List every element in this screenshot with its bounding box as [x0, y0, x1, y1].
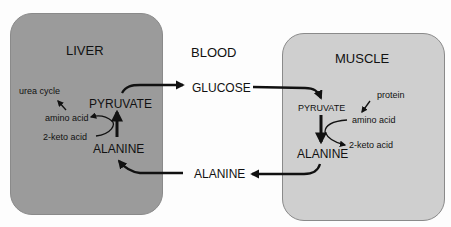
pyruvate-to-glucose-arrow [122, 85, 183, 93]
glucose-to-muscle-pyruvate-arrow [253, 87, 321, 98]
liver-transamination-arrow [91, 116, 113, 136]
liver-urea-cycle-arrow [58, 101, 66, 110]
muscle-alanine-to-blood-arrow [252, 164, 320, 174]
reaction-arrows [0, 0, 451, 227]
blood-alanine-to-liver-arrow [119, 161, 183, 173]
muscle-protein-arrow [362, 101, 370, 112]
glucose-alanine-cycle-diagram: LIVER urea cycle PYRUVATE amino acid 2-k… [0, 0, 451, 227]
muscle-transamination-arrow [325, 120, 347, 145]
